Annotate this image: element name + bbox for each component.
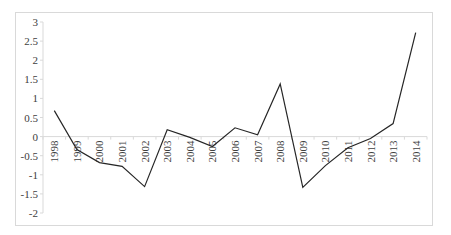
- x-tick-label: 2000: [93, 140, 105, 163]
- x-tick-label: 2007: [252, 140, 264, 163]
- x-tick-label: 2006: [229, 140, 241, 163]
- y-tick-label: 0.5: [24, 112, 38, 124]
- y-tick-label: -2: [29, 207, 38, 219]
- x-tick-label: 2014: [410, 140, 422, 163]
- x-tick-label: 2010: [319, 140, 331, 163]
- x-tick-label: 2002: [139, 141, 151, 163]
- x-tick-label: 2012: [365, 141, 377, 163]
- x-tick-label: 2009: [297, 140, 309, 163]
- y-tick-label: 1: [33, 92, 39, 104]
- x-tick-label: 2001: [116, 141, 128, 163]
- x-tick-label: 2004: [184, 140, 196, 163]
- x-tick-label: 1998: [48, 140, 60, 163]
- line-chart: 32.521.510.50-0.5-1-1.5-2199819992000200…: [0, 0, 451, 235]
- y-tick-label: -1: [29, 169, 38, 181]
- series-line: [54, 33, 415, 188]
- y-tick-label: -0.5: [21, 150, 39, 162]
- y-tick-label: 3: [33, 16, 39, 28]
- x-tick-label: 2003: [161, 140, 173, 163]
- x-tick-label: 2008: [274, 140, 286, 163]
- y-tick-label: 2.5: [24, 35, 38, 47]
- x-tick-label: 2013: [387, 140, 399, 163]
- y-tick-label: -1.5: [21, 188, 39, 200]
- y-tick-label: 2: [33, 54, 39, 66]
- y-tick-label: 1.5: [24, 73, 38, 85]
- y-tick-label: 0: [33, 131, 39, 143]
